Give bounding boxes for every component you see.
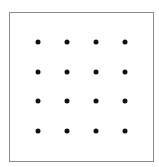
- grid-dot: [36, 99, 41, 104]
- grid-dot: [36, 129, 41, 134]
- grid-dot: [123, 70, 128, 75]
- grid-dot: [65, 40, 70, 45]
- grid-dot: [94, 129, 99, 134]
- grid-dot: [65, 99, 70, 104]
- grid-dot: [65, 129, 70, 134]
- grid-dot: [123, 99, 128, 104]
- grid-dot: [94, 99, 99, 104]
- grid-dot: [94, 70, 99, 75]
- grid-frame: [9, 12, 154, 162]
- grid-dot: [123, 40, 128, 45]
- grid-dot: [65, 70, 70, 75]
- grid-dot: [36, 70, 41, 75]
- grid-dot: [123, 129, 128, 134]
- grid-dot: [36, 40, 41, 45]
- grid-dot: [94, 40, 99, 45]
